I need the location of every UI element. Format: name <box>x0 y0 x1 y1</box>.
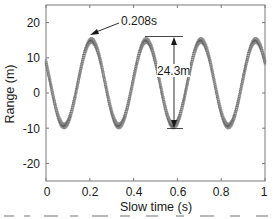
amplitude-label: 24.3m <box>157 64 190 78</box>
x-axis-label: Slow time (s) <box>120 200 192 214</box>
plot-area <box>46 5 265 181</box>
x-tick-label: 1 <box>261 185 268 199</box>
peak-time-label: 0.208s <box>121 14 157 28</box>
x-tick-labels: 0 0.2 0.4 0.6 0.8 1 <box>44 185 268 199</box>
range-vs-slow-time-chart: 20 10 0 -10 -20 0 0.2 0.4 0.6 0.8 1 Slow… <box>0 0 275 219</box>
x-tick-label: 0.6 <box>170 185 187 199</box>
y-tick-labels: 20 10 0 -10 -20 <box>23 16 41 171</box>
y-tick-label: -10 <box>23 122 41 136</box>
y-tick-label: 10 <box>27 51 41 65</box>
y-tick-label: 20 <box>27 16 41 30</box>
y-tick-label: 0 <box>33 86 40 100</box>
x-tick-label: 0 <box>44 185 51 199</box>
y-tick-label: -20 <box>23 157 41 171</box>
cut-off-caption-fragment <box>0 213 275 219</box>
x-tick-label: 0.4 <box>126 185 143 199</box>
x-tick-label: 0.2 <box>82 185 99 199</box>
y-axis-label: Range (m) <box>3 64 17 123</box>
x-tick-label: 0.8 <box>213 185 230 199</box>
